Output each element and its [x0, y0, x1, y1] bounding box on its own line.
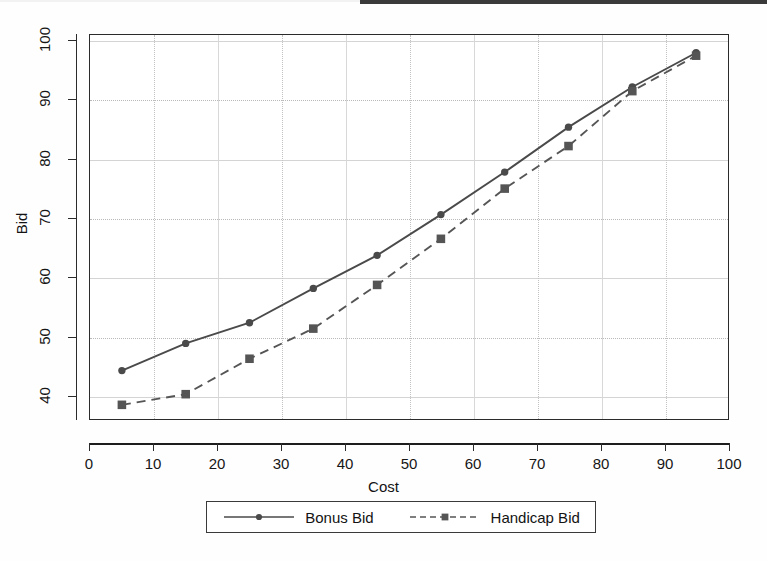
- x-tick-label-10: 10: [130, 455, 176, 472]
- x-tick-label-100: 100: [706, 455, 752, 472]
- y-tick-label-70: 70: [36, 198, 53, 238]
- y-tick-label-90: 90: [36, 79, 53, 119]
- legend-key-solid-circle-icon: [222, 510, 296, 524]
- x-tick-20: [217, 443, 218, 451]
- x-tick-label-40: 40: [322, 455, 368, 472]
- chart-legend: Bonus Bid Handicap Bid: [206, 501, 596, 533]
- x-tick-50: [409, 443, 410, 451]
- data-point-handicap-bid-25: [245, 354, 254, 363]
- x-tick-10: [153, 443, 154, 451]
- chart-figure: 0102030405060708090100405060708090100 Co…: [0, 0, 767, 561]
- data-point-handicap-bid-65: [500, 184, 509, 193]
- x-tick-70: [537, 443, 538, 451]
- data-point-handicap-bid-75: [564, 142, 573, 151]
- y-tick-label-100: 100: [36, 19, 53, 59]
- series-line-bonus-bid: [122, 53, 696, 371]
- y-tick-50: [68, 337, 76, 338]
- y-tick-90: [68, 99, 76, 100]
- y-axis-title: Bid: [13, 194, 30, 254]
- legend-label-bonus-bid: Bonus Bid: [305, 509, 373, 526]
- y-tick-40: [68, 396, 76, 397]
- data-point-bonus-bid-35: [310, 285, 317, 292]
- y-tick-100: [68, 40, 76, 41]
- y-axis-line: [76, 34, 77, 420]
- x-tick-label-60: 60: [450, 455, 496, 472]
- data-point-bonus-bid-75: [565, 123, 572, 130]
- plot-area: [89, 34, 729, 420]
- data-point-handicap-bid-55: [437, 235, 446, 244]
- data-point-handicap-bid-35: [309, 324, 318, 333]
- y-tick-80: [68, 159, 76, 160]
- legend-key-dashed-square-icon: [408, 510, 482, 524]
- x-tick-label-50: 50: [386, 455, 432, 472]
- data-point-bonus-bid-45: [373, 252, 380, 259]
- x-tick-label-20: 20: [194, 455, 240, 472]
- y-tick-label-80: 80: [36, 138, 53, 178]
- data-point-handicap-bid-85: [628, 87, 637, 96]
- x-tick-90: [665, 443, 666, 451]
- series-line-handicap-bid: [122, 56, 696, 405]
- y-tick-label-40: 40: [36, 376, 53, 416]
- data-point-handicap-bid-5: [118, 401, 127, 410]
- series-layer: [90, 35, 728, 419]
- data-point-bonus-bid-15: [182, 340, 189, 347]
- scan-artifact-bar: [360, 0, 767, 4]
- x-tick-30: [281, 443, 282, 451]
- x-tick-80: [601, 443, 602, 451]
- legend-entry-bonus-bid: Bonus Bid: [222, 509, 373, 526]
- y-tick-60: [68, 277, 76, 278]
- y-tick-label-60: 60: [36, 257, 53, 297]
- data-point-handicap-bid-45: [373, 281, 382, 290]
- legend-label-handicap-bid: Handicap Bid: [491, 509, 580, 526]
- x-tick-100: [729, 443, 730, 451]
- legend-entry-handicap-bid: Handicap Bid: [408, 509, 580, 526]
- x-tick-label-90: 90: [642, 455, 688, 472]
- y-tick-label-50: 50: [36, 316, 53, 356]
- x-tick-label-30: 30: [258, 455, 304, 472]
- y-tick-70: [68, 218, 76, 219]
- data-point-bonus-bid-25: [246, 319, 253, 326]
- x-axis-title: Cost: [0, 478, 767, 495]
- x-tick-0: [89, 443, 90, 451]
- x-tick-label-70: 70: [514, 455, 560, 472]
- data-point-bonus-bid-65: [501, 168, 508, 175]
- x-tick-60: [473, 443, 474, 451]
- x-tick-label-0: 0: [66, 455, 112, 472]
- x-tick-label-80: 80: [578, 455, 624, 472]
- data-point-handicap-bid-95: [692, 51, 701, 60]
- data-point-handicap-bid-15: [181, 390, 190, 399]
- data-point-bonus-bid-55: [437, 211, 444, 218]
- x-tick-40: [345, 443, 346, 451]
- data-point-bonus-bid-5: [118, 367, 125, 374]
